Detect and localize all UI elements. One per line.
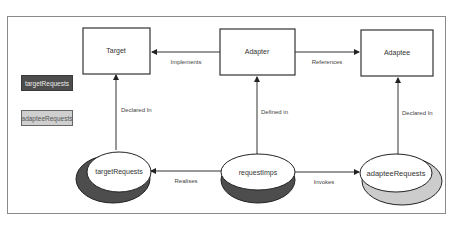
edge-invokes: Invokes	[295, 172, 359, 185]
edge-label-declared-in-adaptee: Declared In	[402, 110, 433, 116]
ellipse-request-imps[interactable]: requestImps	[221, 154, 295, 203]
edge-declared-in-target: Declared In	[116, 75, 152, 150]
edge-label-implements: Implements	[170, 59, 201, 65]
edge-label-realises: Realises	[174, 178, 197, 184]
edge-declared-in-adaptee: Declared In	[398, 78, 433, 156]
edge-label-invokes: Invokes	[314, 179, 335, 185]
edge-defined-in: Defined in	[257, 77, 288, 158]
legend-target-requests: targetRequests	[21, 75, 73, 91]
box-label-adapter: Adapter	[245, 48, 270, 56]
box-target[interactable]: Target	[83, 28, 150, 74]
ellipse-label-adaptee-requests: adapteeRequests	[367, 169, 426, 178]
edge-realises: Realises	[151, 171, 222, 184]
ellipse-label-request-imps: requestImps	[239, 169, 278, 177]
edge-label-references: References	[312, 59, 343, 65]
box-label-adaptee: Adaptee	[384, 49, 410, 57]
edge-references: References	[295, 52, 359, 65]
edge-label-declared-in-target: Declared In	[121, 107, 152, 113]
ellipse-label-target-requests: targetRequests	[95, 168, 143, 176]
ellipse-adaptee-requests[interactable]: adapteeRequests	[360, 154, 442, 205]
box-label-target: Target	[106, 47, 126, 55]
edge-implements: Implements	[152, 52, 220, 65]
edge-label-defined-in: Defined in	[261, 109, 288, 115]
ellipse-target-requests[interactable]: targetRequests	[76, 152, 151, 203]
box-adapter[interactable]: Adapter	[220, 29, 295, 75]
box-adaptee[interactable]: Adaptee	[361, 30, 433, 76]
legend-adaptee-requests: adapteeRequests	[21, 110, 73, 126]
